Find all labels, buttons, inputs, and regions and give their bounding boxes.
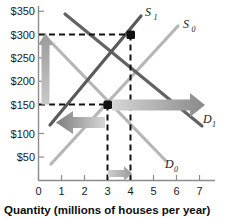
curve-label-S0-text: S [183,17,189,31]
demand-shift-arrow [112,93,205,117]
x-tick-label-2: 2 [81,185,87,197]
curve-label-S0-sub: 0 [192,25,196,34]
curve-label-D0-text: D [164,157,174,171]
y-axis-tick-labels: $350 $300 $250 $200 $150 $100 $50 [11,5,35,163]
x-axis-tick-labels: 0 1 2 3 4 5 6 7 [35,185,202,197]
x-tick-label-3: 3 [104,185,110,197]
y-tick-label-200: $200 [11,75,35,87]
supply-demand-chart: $350 $300 $250 $200 $150 $100 $50 0 1 2 … [0,0,227,219]
x-tick-label-4: 4 [127,185,133,197]
chart-svg: $350 $300 $250 $200 $150 $100 $50 0 1 2 … [0,0,227,219]
x-tick-label-0: 0 [35,185,41,197]
curve-label-S0: S 0 [183,17,196,34]
y-tick-label-50: $50 [17,151,35,163]
y-tick-label-100: $100 [11,128,35,140]
curve-label-S1-text: S [145,5,151,19]
curve-label-S1: S 1 [145,5,158,22]
x-tick-label-6: 6 [173,185,179,197]
price-increase-arrow [38,33,53,105]
chart-curves [47,14,202,164]
curve-label-D0: D 0 [164,157,178,174]
initial-equilibrium-marker [104,101,113,110]
quantity-increase-arrow [108,166,132,181]
new-equilibrium-marker [127,31,136,40]
y-tick-label-150: $150 [11,99,35,111]
x-tick-label-5: 5 [150,185,156,197]
x-tick-label-1: 1 [58,185,64,197]
curve-label-D0-sub: 0 [174,165,178,174]
y-tick-label-250: $250 [11,52,35,64]
x-axis-title: Quantity (millions of houses per year) [4,204,211,216]
curve-label-D1: D 1 [202,112,216,129]
y-tick-label-350: $350 [11,5,35,17]
x-tick-label-7: 7 [196,185,202,197]
curve-label-S1-sub: 1 [154,13,158,22]
y-tick-label-300: $300 [11,29,35,41]
curve-label-D1-sub: 1 [212,120,216,129]
curve-label-D1-text: D [202,112,212,126]
